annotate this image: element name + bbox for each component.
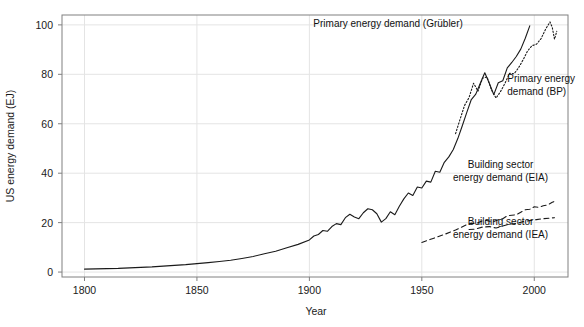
y-tick-label: 20 — [41, 217, 53, 229]
annotation-line: energy demand (IEA) — [453, 229, 548, 240]
annotation-line: demand (BP) — [507, 86, 566, 97]
y-tick-label: 100 — [35, 19, 53, 31]
y-axis-title: US energy demand (EJ) — [4, 90, 16, 203]
x-tick-label: 2000 — [523, 284, 547, 296]
y-tick-label: 60 — [41, 118, 53, 130]
annotation-line: Primary energy — [507, 73, 575, 84]
energy-demand-chart-figure: 02040608010018001850190019502000 Primary… — [0, 0, 584, 327]
annotation-line: energy demand (EIA) — [453, 172, 548, 183]
annotation-line: Primary energy demand (Grübler) — [313, 18, 463, 29]
chart-svg: 02040608010018001850190019502000 Primary… — [0, 0, 584, 327]
annotation-line: Building sector — [468, 159, 534, 170]
y-tick-label: 40 — [41, 167, 53, 179]
y-tick-label: 0 — [47, 266, 53, 278]
x-tick-label: 1900 — [298, 284, 322, 296]
primary-energy-grubler-label: Primary energy demand (Grübler) — [313, 18, 463, 29]
x-axis-title: Year — [305, 305, 327, 317]
y-tick-label: 80 — [41, 68, 53, 80]
x-tick-label: 1850 — [185, 284, 209, 296]
x-tick-label: 1950 — [410, 284, 434, 296]
x-tick-label: 1800 — [73, 284, 97, 296]
annotation-line: Building sector — [468, 216, 534, 227]
